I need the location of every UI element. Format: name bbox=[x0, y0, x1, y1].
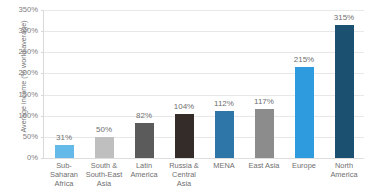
bar-value-label: 112% bbox=[204, 100, 244, 108]
x-axis-category-line: Africa bbox=[45, 179, 83, 188]
bar-chart: · · · · · · · Average income (% world av… bbox=[0, 0, 368, 190]
bar-slot: 50% bbox=[84, 10, 124, 158]
bar[interactable] bbox=[255, 109, 274, 158]
y-axis-tick-mark bbox=[41, 158, 44, 159]
bar-value-label: 117% bbox=[244, 98, 284, 106]
x-axis-category-label: East Asia bbox=[244, 161, 284, 188]
bar-slot: 315% bbox=[324, 10, 364, 158]
bar-value-label: 82% bbox=[124, 112, 164, 120]
bar-slot: 82% bbox=[124, 10, 164, 158]
bar-value-label: 31% bbox=[44, 134, 84, 142]
bar-value-label: 315% bbox=[324, 14, 364, 22]
bar-slot: 117% bbox=[244, 10, 284, 158]
y-axis-tick-label: 350% bbox=[0, 6, 38, 14]
y-axis-tick-mark bbox=[41, 10, 44, 11]
y-axis-tick-label: 100% bbox=[0, 112, 38, 120]
x-axis-category-line: Europe bbox=[285, 161, 323, 170]
x-axis-category-label: MENA bbox=[204, 161, 244, 188]
y-axis-tick-mark bbox=[41, 137, 44, 138]
bar[interactable] bbox=[135, 123, 154, 158]
x-axis-category-line: South-East bbox=[85, 170, 123, 179]
bar-value-label: 215% bbox=[284, 56, 324, 64]
x-axis-category-line: Russia & bbox=[165, 161, 203, 170]
bar-slot: 104% bbox=[164, 10, 204, 158]
x-axis-category-line: MENA bbox=[205, 161, 243, 170]
x-axis-category-line: North bbox=[325, 161, 363, 170]
x-axis-category-line: Central Asia bbox=[165, 170, 203, 188]
x-axis-category-line: Asia bbox=[85, 179, 123, 188]
y-axis-tick-mark bbox=[41, 116, 44, 117]
y-axis-tick-mark bbox=[41, 95, 44, 96]
x-axis-category-label: NorthAmerica bbox=[324, 161, 364, 188]
x-axis-category-line: America bbox=[325, 170, 363, 179]
bar-value-label: 104% bbox=[164, 103, 204, 111]
bar-slot: 215% bbox=[284, 10, 324, 158]
x-axis-category-line: Latin bbox=[125, 161, 163, 170]
plot-area: 31%50%82%104%112%117%215%315% 0%50%100%1… bbox=[44, 10, 364, 158]
bar-slot: 112% bbox=[204, 10, 244, 158]
bar[interactable] bbox=[55, 145, 74, 158]
clipped-title-remnant: · · · · · · · bbox=[6, 0, 306, 2]
y-axis-tick-label: 150% bbox=[0, 91, 38, 99]
bar[interactable] bbox=[295, 67, 314, 158]
x-axis-category-label: Europe bbox=[284, 161, 324, 188]
bar-series: 31%50%82%104%112%117%215%315% bbox=[44, 10, 364, 158]
y-axis-tick-label: 250% bbox=[0, 48, 38, 56]
y-axis-tick-label: 200% bbox=[0, 69, 38, 77]
x-axis-category-label: Sub-SaharanAfrica bbox=[44, 161, 84, 188]
bar-value-label: 50% bbox=[84, 126, 124, 134]
y-axis-tick-label: 300% bbox=[0, 27, 38, 35]
gridline bbox=[44, 158, 364, 159]
x-axis-category-line: America bbox=[125, 170, 163, 179]
bar[interactable] bbox=[175, 114, 194, 158]
x-axis-category-line: East Asia bbox=[245, 161, 283, 170]
bar-slot: 31% bbox=[44, 10, 84, 158]
y-axis-tick-label: 0% bbox=[0, 154, 38, 162]
y-axis-tick-label: 50% bbox=[0, 133, 38, 141]
x-axis-category-line: Sub-Saharan bbox=[45, 161, 83, 179]
y-axis-tick-mark bbox=[41, 73, 44, 74]
x-axis-category-line: South & bbox=[85, 161, 123, 170]
bar[interactable] bbox=[95, 137, 114, 158]
x-axis-labels: Sub-SaharanAfricaSouth &South-EastAsiaLa… bbox=[44, 161, 364, 188]
y-axis-tick-mark bbox=[41, 31, 44, 32]
x-axis-category-label: LatinAmerica bbox=[124, 161, 164, 188]
x-axis-category-label: South &South-EastAsia bbox=[84, 161, 124, 188]
bar[interactable] bbox=[335, 25, 354, 158]
x-axis-category-label: Russia &Central Asia bbox=[164, 161, 204, 188]
y-axis-tick-mark bbox=[41, 52, 44, 53]
bar[interactable] bbox=[215, 111, 234, 158]
